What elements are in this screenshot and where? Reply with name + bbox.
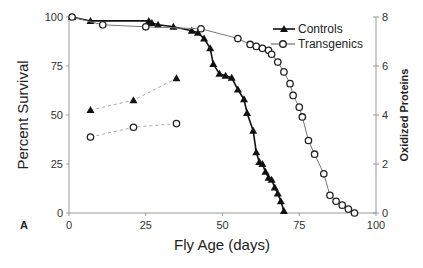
- series-controls-oxidized-proteins: [86, 74, 180, 113]
- circle-marker-icon: [290, 92, 296, 98]
- triangle-marker-icon: [172, 74, 180, 81]
- triangle-marker-icon: [215, 70, 223, 77]
- x-tick-label: 0: [66, 219, 72, 231]
- circle-marker-icon: [327, 192, 333, 198]
- y-tick-label: 75: [51, 60, 63, 72]
- legend-controls-label: Controls: [298, 22, 343, 36]
- y2-axis-title: Oxidized Proteins: [398, 69, 410, 162]
- x-tick-label: 50: [216, 219, 228, 231]
- circle-marker-icon: [296, 104, 302, 110]
- circle-marker-icon: [143, 24, 149, 30]
- legend-transgenics-circle-icon: [280, 41, 287, 48]
- y2-tick-label: 2: [382, 158, 388, 170]
- circle-marker-icon: [299, 114, 305, 120]
- y2-tick-label: 0: [382, 207, 388, 219]
- circle-marker-icon: [333, 198, 339, 204]
- y2-tick-label: 8: [382, 11, 388, 23]
- triangle-marker-icon: [280, 207, 288, 214]
- x-tick-label: 100: [367, 219, 385, 231]
- y-tick-label: 0: [57, 207, 63, 219]
- x-tick-label: 75: [293, 219, 305, 231]
- y-tick-label: 25: [51, 158, 63, 170]
- triangle-marker-icon: [240, 95, 248, 102]
- circle-marker-icon: [281, 69, 287, 75]
- circle-marker-icon: [321, 171, 327, 177]
- circle-marker-icon: [130, 124, 136, 130]
- y-axis-title: Percent Survival: [14, 60, 31, 169]
- legend: Controls Transgenics: [271, 22, 363, 51]
- circle-marker-icon: [247, 41, 253, 47]
- circle-marker-icon: [345, 206, 351, 212]
- circle-marker-icon: [287, 80, 293, 86]
- x-axis-title: Fly Age (days): [174, 236, 270, 253]
- y2-tick-label: 4: [382, 109, 388, 121]
- y-tick-label: 50: [51, 109, 63, 121]
- circle-marker-icon: [259, 45, 265, 51]
- circle-marker-icon: [235, 35, 241, 41]
- circle-marker-icon: [311, 151, 317, 157]
- circle-marker-icon: [305, 137, 311, 143]
- triangle-marker-icon: [234, 86, 242, 93]
- circle-marker-icon: [268, 51, 274, 57]
- triangle-marker-icon: [271, 184, 279, 191]
- series-transgenics-oxidized-proteins: [87, 120, 179, 140]
- panel-label: A: [20, 219, 28, 231]
- triangle-marker-icon: [261, 168, 269, 175]
- circle-marker-icon: [87, 134, 93, 140]
- series-line: [90, 78, 176, 110]
- triangle-marker-icon: [206, 44, 214, 51]
- triangle-marker-icon: [249, 127, 257, 134]
- circle-marker-icon: [198, 26, 204, 32]
- x-tick-label: 25: [140, 219, 152, 231]
- y2-tick-label: 6: [382, 60, 388, 72]
- triangle-marker-icon: [277, 197, 285, 204]
- triangle-marker-icon: [252, 148, 260, 155]
- y-tick-label: 100: [45, 11, 63, 23]
- survival-chart: 0255075100025507510002468 Controls Trans…: [0, 0, 423, 268]
- circle-marker-icon: [275, 59, 281, 65]
- circle-marker-icon: [100, 22, 106, 28]
- triangle-marker-icon: [209, 60, 217, 67]
- circle-marker-icon: [351, 210, 357, 216]
- triangle-marker-icon: [129, 96, 137, 103]
- legend-transgenics-label: Transgenics: [298, 37, 363, 51]
- circle-marker-icon: [69, 14, 75, 20]
- circle-marker-icon: [339, 202, 345, 208]
- circle-marker-icon: [173, 120, 179, 126]
- triangle-marker-icon: [243, 109, 251, 116]
- circle-marker-icon: [253, 43, 259, 49]
